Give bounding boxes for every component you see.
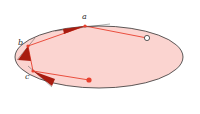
end-point: [86, 77, 91, 82]
label-c: c: [25, 72, 30, 81]
point-b: [26, 44, 29, 47]
start-point: [144, 35, 149, 40]
point-a: [83, 24, 86, 27]
label-b: b: [18, 38, 23, 47]
label-a: a: [82, 12, 87, 21]
point-c: [31, 69, 34, 72]
ellipse-table: [15, 26, 183, 88]
billiard-diagram: a b c: [0, 0, 200, 114]
